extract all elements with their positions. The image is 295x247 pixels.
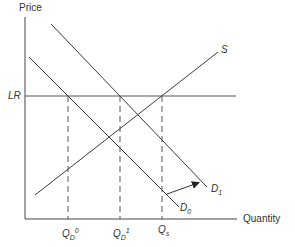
- qd1-label: QD1: [113, 229, 130, 239]
- supply-curve: [35, 52, 218, 195]
- supply-demand-diagram: Price Quantity LR S D1 D0 QD0 QD1 Qs: [0, 0, 295, 247]
- supply-label: S: [221, 45, 228, 55]
- diagram-svg: [0, 0, 295, 247]
- qd0-sup: 0: [75, 227, 79, 234]
- qd1-sub: D: [121, 234, 126, 241]
- x-axis-label: Quantity: [243, 214, 280, 224]
- y-axis-label: Price: [19, 3, 42, 13]
- shift-arrow-icon: [167, 183, 198, 194]
- demand-d0-sub: 0: [187, 208, 191, 215]
- demand-curve-d1: [51, 24, 207, 187]
- demand-d0-label: D0: [180, 203, 191, 213]
- qs-label: Qs: [158, 225, 169, 235]
- qd1-sup: 1: [126, 227, 130, 234]
- qs-main: Q: [158, 224, 166, 235]
- demand-d1-sub: 1: [218, 189, 222, 196]
- qd0-sub: D: [70, 234, 75, 241]
- qd0-main: Q: [62, 228, 70, 239]
- qs-sub: s: [166, 230, 170, 237]
- qd1-main: Q: [113, 228, 121, 239]
- qd0-label: QD0: [62, 229, 79, 239]
- lr-label: LR: [8, 91, 21, 101]
- demand-d1-label: D1: [211, 184, 222, 194]
